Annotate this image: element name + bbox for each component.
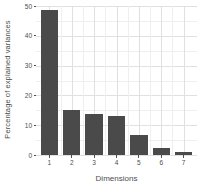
x-axis-tick-mark: [116, 155, 117, 158]
x-axis-tick-mark: [138, 155, 139, 158]
y-axis-tick-label: 50: [25, 3, 32, 10]
x-axis-tick: 4: [107, 155, 127, 166]
x-axis-tick-mark: [71, 155, 72, 158]
bar: [108, 116, 125, 155]
bar: [41, 10, 58, 155]
y-axis-tick: 50: [25, 1, 36, 11]
y-axis-tick: 40: [25, 31, 36, 41]
plot-panel: [36, 6, 197, 155]
x-axis-tick: 7: [174, 155, 194, 166]
x-axis-tick: 2: [62, 155, 82, 166]
bar: [130, 135, 147, 155]
x-axis-tick: 3: [84, 155, 104, 166]
x-axis-tick: 6: [151, 155, 171, 166]
bar: [153, 148, 170, 155]
y-axis-tick-label: 0: [28, 152, 32, 159]
x-axis-tick-group: 1234567: [36, 155, 197, 173]
x-axis-tick-label: 3: [92, 159, 96, 166]
y-axis-title: Percentage of explained variances: [0, 0, 14, 158]
y-axis-tick-group: 01020304050: [14, 0, 36, 160]
x-axis-tick-mark: [94, 155, 95, 158]
bar: [85, 114, 102, 155]
scree-plot-screenshot: Percentage of explained variances 010203…: [0, 0, 203, 193]
y-axis-tick: 0: [28, 150, 36, 160]
x-axis-tick-label: 5: [137, 159, 141, 166]
x-axis-tick: 1: [39, 155, 59, 166]
y-axis-title-text: Percentage of explained variances: [3, 20, 12, 138]
bars-layer: [36, 6, 197, 155]
x-axis-tick-label: 6: [159, 159, 163, 166]
y-axis-tick-label: 40: [25, 32, 32, 39]
x-axis-tick: 5: [129, 155, 149, 166]
y-axis-tick: 20: [25, 90, 36, 100]
x-axis-tick-label: 1: [48, 159, 52, 166]
x-axis-tick-label: 7: [182, 159, 186, 166]
y-axis-tick-label: 20: [25, 92, 32, 99]
y-axis-tick: 30: [25, 61, 36, 71]
y-axis-tick-label: 30: [25, 62, 32, 69]
x-axis-tick-label: 4: [115, 159, 119, 166]
y-axis-tick: 10: [25, 120, 36, 130]
x-axis-tick-label: 2: [70, 159, 74, 166]
bar: [63, 110, 80, 155]
x-axis-tick-mark: [49, 155, 50, 158]
x-axis-tick-mark: [183, 155, 184, 158]
y-axis-tick-label: 10: [25, 122, 32, 129]
x-axis-tick-mark: [161, 155, 162, 158]
x-axis-title: Dimensions: [36, 174, 197, 183]
